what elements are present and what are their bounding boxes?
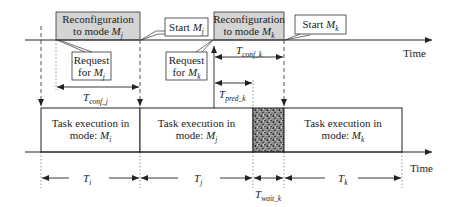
task-mi-label: Task execution in mode: Mi bbox=[41, 117, 140, 146]
task-mk-label: Task execution in mode: Mk bbox=[284, 117, 402, 146]
t-conf-k-label: Tconf_k bbox=[236, 44, 262, 61]
start-mk-label: Start Mk bbox=[295, 18, 346, 35]
t-wait-k-label: Twait_k bbox=[255, 188, 281, 205]
top-time-label: Time bbox=[403, 47, 426, 59]
bottom-time-label: Time bbox=[410, 162, 433, 174]
request-mk-label: Request for Mk bbox=[166, 54, 207, 83]
reconfig-mk-label: Reconfiguration to mode Mk bbox=[213, 13, 285, 42]
request-mj-label: Request for Mj bbox=[72, 54, 111, 83]
reconfig-mj-label: Reconfiguration to mode Mj bbox=[56, 13, 140, 42]
t-conf-j-label: Tconf_j bbox=[83, 91, 108, 108]
t-pred-k-label: Tpred_k bbox=[219, 88, 246, 105]
start-mj-label: Start Mj bbox=[165, 21, 208, 38]
t-k-label: Tk bbox=[338, 172, 347, 189]
task-mj-label: Task execution in mode: Mj bbox=[140, 117, 253, 146]
t-j-label: Tj bbox=[194, 172, 202, 189]
t-i-label: Ti bbox=[83, 172, 91, 189]
wait-block bbox=[253, 108, 284, 152]
